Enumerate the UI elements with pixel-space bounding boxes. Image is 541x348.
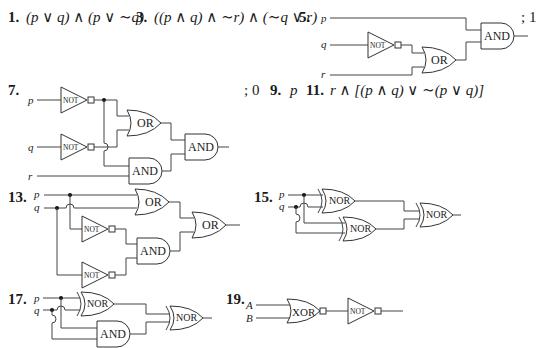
svg-text:OR: OR	[431, 53, 448, 67]
svg-text:AND: AND	[140, 244, 166, 258]
circuit-problem-13: p q OR NOT NOT AND	[33, 188, 240, 288]
svg-text:NOT: NOT	[84, 225, 100, 234]
circuit-problem-17: p q NOR AND NOR	[33, 292, 212, 347]
circuit-problem-5: p q r NOT OR AND	[320, 12, 528, 80]
circuit-problem-19: A B XOR NOT	[245, 298, 403, 324]
or-gate: OR	[422, 47, 456, 73]
svg-text:NOR: NOR	[87, 298, 108, 309]
input-p-label: p	[278, 188, 285, 200]
svg-text:OR: OR	[145, 195, 162, 209]
input-r-label: r	[28, 170, 33, 182]
svg-text:NOT: NOT	[63, 96, 79, 105]
svg-text:AND: AND	[132, 164, 158, 178]
input-q-label: q	[34, 201, 40, 213]
svg-text:NOR: NOR	[426, 209, 447, 220]
or-gate-top: OR	[135, 189, 169, 215]
svg-text:NOT: NOT	[370, 41, 386, 50]
input-p-label: p	[33, 292, 40, 304]
not-gate: NOT	[368, 32, 394, 58]
or-gate: OR	[127, 110, 161, 136]
svg-text:XOR: XOR	[292, 306, 316, 318]
svg-text:NOR: NOR	[176, 312, 197, 323]
circuit-problem-15: p q NOR NOR NOR	[278, 188, 461, 241]
not-gate-p: NOT	[61, 87, 87, 113]
svg-text:NOR: NOR	[350, 223, 371, 234]
nor-gate-final: NOR	[166, 306, 203, 330]
nor-gate-top: NOR	[77, 292, 114, 316]
svg-text:AND: AND	[100, 327, 126, 341]
or-gate-final: OR	[192, 212, 226, 238]
svg-text:NOT: NOT	[63, 143, 79, 152]
and-gate: AND	[97, 321, 130, 347]
svg-text:OR: OR	[137, 116, 154, 130]
and-gate: AND	[137, 238, 170, 264]
xor-gate: XOR	[287, 299, 320, 323]
input-p-label: p	[33, 188, 40, 200]
input-q-label: q	[28, 141, 34, 153]
and-gate: AND	[481, 23, 514, 49]
svg-text:OR: OR	[202, 218, 219, 232]
nor-gate-top: NOR	[318, 189, 355, 213]
svg-text:AND: AND	[484, 29, 510, 43]
not-gate: NOT	[348, 298, 374, 324]
input-r-label: r	[321, 68, 326, 80]
svg-text:NOR: NOR	[329, 195, 350, 206]
not-gate-p: NOT	[82, 216, 108, 242]
svg-text:NOT: NOT	[350, 307, 366, 316]
and-gate-lower: AND	[129, 158, 162, 184]
not-gate-q: NOT	[61, 134, 87, 160]
input-q-label: q	[321, 38, 327, 50]
input-p-label: p	[27, 94, 34, 106]
circuit-problem-7: p q r NOT NOT OR AND	[27, 87, 229, 184]
svg-text:NOT: NOT	[84, 271, 100, 280]
svg-text:AND: AND	[188, 140, 214, 154]
input-q-label: q	[34, 304, 40, 316]
input-a-label: A	[245, 299, 253, 311]
circuit-diagrams: p q r NOT OR AND p q r	[0, 0, 541, 348]
not-gate-q: NOT	[82, 262, 108, 288]
and-gate-final: AND	[185, 134, 218, 160]
input-p-label: p	[320, 12, 327, 24]
nor-gate-final: NOR	[416, 203, 453, 227]
nor-gate-bottom: NOR	[339, 217, 376, 241]
input-b-label: B	[246, 312, 253, 324]
input-q-label: q	[279, 200, 285, 212]
